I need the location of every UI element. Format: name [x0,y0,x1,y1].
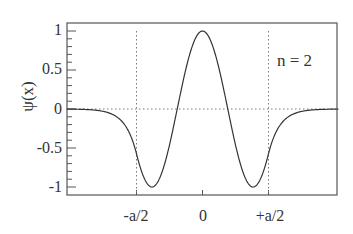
y-tick-label-0: 0 [22,101,62,117]
y-tick-label-neg-0.5: -0.5 [22,140,62,156]
axis-ticks [67,31,269,195]
y-tick-label-1: 1 [22,22,62,38]
x-tick-label-plus-a-half: +a/2 [240,208,300,224]
y-tick-label-0.5: 0.5 [22,61,62,77]
x-tick-label-zero: 0 [173,208,233,224]
x-tick-label-minus-a-half: -a/2 [106,208,166,224]
quantum-number-annotation: n = 2 [277,52,312,69]
y-tick-label-neg-1: -1 [22,179,62,195]
